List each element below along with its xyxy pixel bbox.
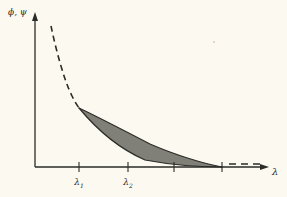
dashed-decay-curve [51, 26, 79, 108]
plot-canvas [0, 0, 287, 197]
x-tick-label-lambda-1: λ1 [74, 178, 84, 189]
figure-container: ϕ, ψ λ λ1 λ2 [0, 0, 287, 197]
y-axis-arrowhead [32, 12, 38, 21]
x-axis-arrowhead [260, 164, 269, 170]
x-axis-label: λ [272, 167, 278, 177]
paper-speck [213, 41, 215, 43]
y-axis-label: ϕ, ψ [8, 8, 27, 17]
x-tick-label-lambda-2: λ2 [123, 178, 133, 189]
shaded-lens-region [79, 108, 222, 167]
